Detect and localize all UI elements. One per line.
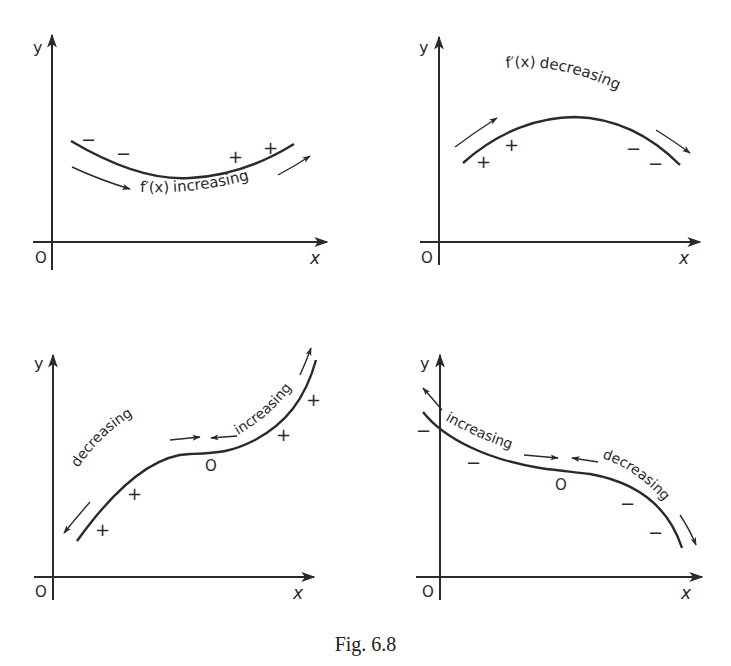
sign-minus: −: [466, 452, 481, 473]
x-axis-label: x: [678, 248, 690, 268]
zero-label: O: [555, 476, 567, 494]
y-axis-label: y: [419, 38, 428, 57]
origin-label: O: [35, 249, 47, 267]
y-axis-label: y: [420, 354, 429, 373]
figure-caption: Fig. 6.8: [0, 633, 731, 656]
arrow-down-right: [680, 515, 696, 545]
arrow-up-right: [300, 348, 311, 375]
annotation-decreasing: decreasing: [601, 446, 674, 504]
sign-minus: −: [81, 129, 96, 150]
x-axis-label: x: [680, 583, 692, 603]
sign-plus: +: [306, 389, 321, 410]
sign-plus: +: [127, 483, 142, 504]
origin-label: O: [421, 249, 433, 267]
arrow-right: [524, 455, 558, 458]
curve: [71, 141, 294, 178]
sign-plus: +: [263, 137, 278, 158]
annotation-decreasing: decreasing: [67, 404, 134, 469]
zero-label: O: [205, 457, 217, 475]
sign-minus: −: [648, 522, 663, 543]
sign-plus: +: [276, 424, 291, 445]
sign-plus: +: [504, 134, 519, 155]
y-axis-label: y: [33, 38, 42, 57]
figure-6-8: y O x − − + + f′(x)increasing y O x + + …: [0, 0, 731, 666]
x-axis-label: x: [309, 248, 321, 268]
arrow-right: [278, 156, 310, 175]
origin-label: O: [35, 583, 47, 601]
arrow-left: [211, 436, 237, 438]
panel-top-left: y O x − − + + f′(x)increasing: [33, 35, 327, 270]
sign-plus: +: [228, 146, 243, 167]
sign-minus: −: [648, 153, 663, 174]
annotation-derivative: f′(x)decreasing: [505, 53, 624, 94]
sign-minus: −: [620, 493, 635, 514]
sign-minus: −: [626, 138, 641, 159]
origin-label: O: [422, 583, 434, 601]
panel-bottom-right: y O x − − O − − increasing decreasing: [416, 354, 702, 603]
sign-plus: +: [95, 519, 110, 540]
x-axis-label: x: [292, 583, 304, 603]
y-axis-label: y: [34, 354, 43, 373]
sign-plus: +: [476, 151, 491, 172]
panel-top-right: y O x + + − − f′(x)decreasing: [419, 37, 700, 268]
annotation-derivative: f′(x)increasing: [140, 166, 251, 196]
annotation-increasing: increasing: [444, 409, 515, 452]
arrow-left: [572, 458, 598, 462]
sign-minus: −: [116, 143, 131, 164]
sign-minus: −: [416, 420, 431, 441]
panel-bottom-left: y O x + + O + + decreasing increasing: [34, 348, 321, 603]
arrow-left: [72, 167, 130, 189]
arrow-right: [170, 437, 200, 440]
